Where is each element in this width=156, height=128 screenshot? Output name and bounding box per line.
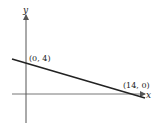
- graph-line: [12, 59, 145, 98]
- y-axis-label: y: [22, 5, 29, 15]
- point-label-y-intercept: (0, 4): [29, 54, 51, 63]
- point-label-x-intercept: (14, 0): [123, 81, 150, 90]
- graph: y x (0, 4) (14, 0): [0, 0, 156, 128]
- x-axis-label: x: [146, 90, 151, 100]
